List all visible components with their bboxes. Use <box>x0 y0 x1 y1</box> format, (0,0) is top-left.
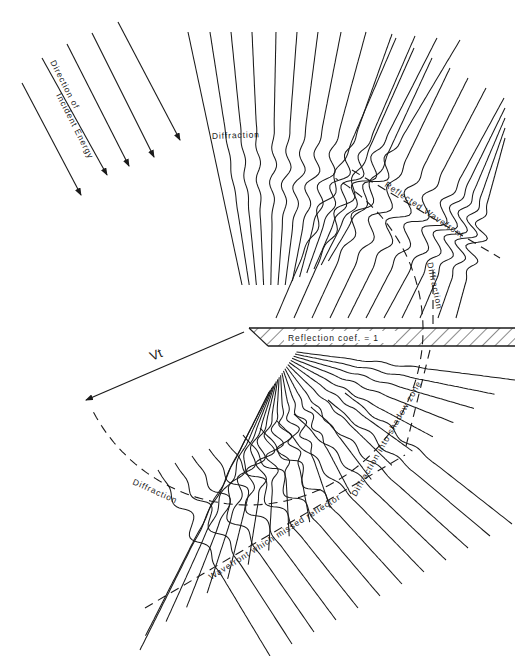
vt-radius: Vt <box>86 332 244 400</box>
diffraction-diagram: Reflection coef. = 1 Vt Direction of Inc… <box>0 0 515 656</box>
reflected-wavefront-label: Reflected Wavefront <box>383 179 466 240</box>
incident-energy-arrows <box>22 22 180 195</box>
diffraction-wavefront-arc <box>94 170 501 608</box>
reflection-coef-label: Reflection coef. = 1 <box>288 333 379 343</box>
diffraction-top-label: Diffraction <box>212 129 260 141</box>
reflector: Reflection coef. = 1 <box>249 328 515 346</box>
reflected-rays <box>276 38 505 318</box>
diffraction-right-label: Diffraction <box>425 261 445 310</box>
vt-label: Vt <box>147 345 165 364</box>
diffraction-lower-left-label: Diffraction <box>131 477 179 506</box>
diffraction-shadow-label: Diffraction into shadow zone <box>349 379 424 498</box>
